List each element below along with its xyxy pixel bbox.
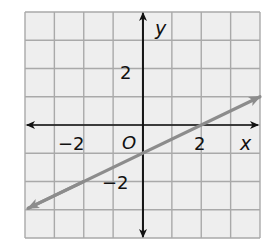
origin-label: O — [122, 132, 136, 153]
y-axis-label: y — [154, 17, 167, 39]
x-tick-label-neg2: −2 — [58, 133, 85, 154]
coordinate-graph: y x O −2 2 2 −2 — [0, 0, 269, 247]
y-tick-label-neg2: −2 — [102, 172, 129, 193]
x-tick-label-2: 2 — [194, 133, 205, 154]
y-tick-label-2: 2 — [120, 62, 131, 83]
x-axis-label: x — [239, 132, 252, 154]
